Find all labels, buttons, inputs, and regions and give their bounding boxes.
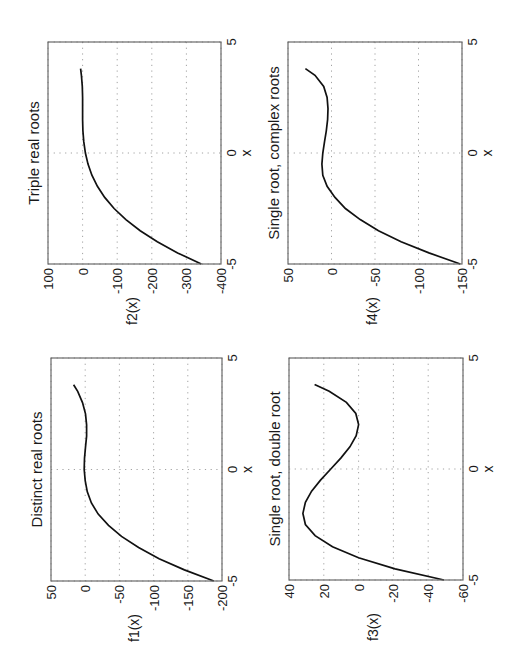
y-axis-label: f3(x) xyxy=(365,613,381,641)
value-tick-label: -60 xyxy=(456,584,471,603)
value-tick-label: 40 xyxy=(282,584,297,598)
subplot-f2: -400-300-200-1000100-505xf2(x)Triple rea… xyxy=(25,38,254,325)
value-tick-label: -400 xyxy=(214,268,229,294)
x-tick-label: -5 xyxy=(224,258,239,270)
x-axis-label: x xyxy=(479,150,495,157)
plot-title: Distinct real roots xyxy=(28,412,45,528)
y-axis-label: f4(x) xyxy=(364,297,380,325)
value-tick-label: 0 xyxy=(76,268,91,275)
x-tick-label: -5 xyxy=(466,574,481,586)
figure: -200-150-100-50050-505xf1(x)Distinct rea… xyxy=(0,0,519,658)
x-tick-label: 0 xyxy=(224,149,239,156)
value-tick-label: 0 xyxy=(78,585,93,592)
plot-title: Single root, complex roots xyxy=(265,66,282,239)
x-tick-label: 5 xyxy=(224,38,239,45)
data-curve xyxy=(305,69,460,264)
value-tick-label: -150 xyxy=(181,585,196,611)
value-tick-label: -300 xyxy=(179,268,194,294)
x-tick-label: -5 xyxy=(225,575,240,587)
value-tick-label: -20 xyxy=(386,584,401,603)
x-tick-label: 0 xyxy=(225,466,240,473)
data-curve xyxy=(303,385,444,580)
x-tick-label: 0 xyxy=(465,149,480,156)
x-tick-label: 0 xyxy=(466,465,481,472)
subplot-f4: -150-100-50050-505xf4(x)Single root, com… xyxy=(265,38,495,325)
x-axis-label: x xyxy=(239,466,255,473)
value-tick-label: 50 xyxy=(44,585,59,599)
value-tick-label: -100 xyxy=(147,585,162,611)
data-curve xyxy=(74,385,214,581)
x-axis-label: x xyxy=(238,150,254,157)
value-tick-label: 0 xyxy=(352,584,367,591)
x-tick-label: 5 xyxy=(225,354,240,361)
x-axis-label: x xyxy=(480,466,496,473)
x-tick-label: 5 xyxy=(465,38,480,45)
data-curve xyxy=(81,69,202,264)
y-axis-label: f1(x) xyxy=(126,614,142,642)
value-tick-label: -200 xyxy=(145,268,160,294)
plot-title: Single root, double root xyxy=(266,391,283,547)
value-tick-label: -40 xyxy=(421,584,436,603)
value-tick-label: 0 xyxy=(325,268,340,275)
value-tick-label: -150 xyxy=(455,268,470,294)
y-axis-label: f2(x) xyxy=(124,297,140,325)
subplot-f1: -200-150-100-50050-505xf1(x)Distinct rea… xyxy=(28,354,255,642)
value-tick-label: -50 xyxy=(368,268,383,287)
subplot-f3: -60-40-2002040-505xf3(x)Single root, dou… xyxy=(266,354,496,641)
value-tick-label: 50 xyxy=(281,268,296,282)
value-tick-label: -100 xyxy=(110,268,125,294)
axes-frame xyxy=(289,358,463,580)
value-tick-label: 100 xyxy=(41,268,56,290)
value-tick-label: -50 xyxy=(112,585,127,604)
x-tick-label: -5 xyxy=(465,258,480,270)
plot-title: Triple real roots xyxy=(25,101,42,205)
value-tick-label: -200 xyxy=(215,585,230,611)
x-tick-label: 5 xyxy=(466,354,481,361)
value-tick-label: -100 xyxy=(412,268,427,294)
value-tick-label: 20 xyxy=(317,584,332,598)
